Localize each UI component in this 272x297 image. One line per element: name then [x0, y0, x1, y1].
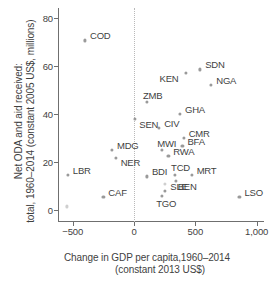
- data-point-rwa[interactable]: [167, 154, 170, 157]
- data-point-label-sen: SEN: [139, 120, 158, 130]
- data-point-label-rwa: RWA: [173, 147, 194, 157]
- data-point-label-sdn: SDN: [205, 60, 224, 70]
- data-point-mdg[interactable]: [110, 148, 113, 151]
- data-point-label-zmb: ZMB: [143, 91, 162, 101]
- data-point-label-nga: NGA: [216, 76, 236, 86]
- data-point-civ[interactable]: [158, 127, 161, 130]
- y-tick-mark: [54, 18, 58, 19]
- data-point-nga[interactable]: [210, 83, 213, 86]
- y-tick-label: 40: [43, 108, 53, 119]
- plot-area: 020406080 −50005001,000 CODSDNKENNGAZMBG…: [58, 8, 264, 222]
- data-point[interactable]: [65, 205, 68, 208]
- y-axis-title-line-2: total, 1960–2014 (constant 2005 US$, mil…: [25, 0, 37, 243]
- data-point-label-lbr: LBR: [73, 166, 91, 176]
- data-point[interactable]: [164, 182, 167, 185]
- data-point-cod[interactable]: [83, 39, 86, 42]
- data-point-label-caf: CAF: [108, 188, 126, 198]
- data-point-label-ner: NER: [121, 158, 140, 168]
- data-point-label-civ: CIV: [164, 119, 179, 129]
- y-tick-mark: [54, 162, 58, 163]
- data-point-gha[interactable]: [178, 112, 181, 115]
- data-point-caf[interactable]: [102, 195, 105, 198]
- x-tick-label: 1,000: [245, 226, 268, 237]
- y-tick-label: 60: [43, 60, 53, 71]
- scatter-plot-figure: 020406080 −50005001,000 CODSDNKENNGAZMBG…: [0, 0, 272, 297]
- data-point-tgo[interactable]: [161, 194, 164, 197]
- data-point-cmr[interactable]: [182, 136, 185, 139]
- data-point-label-mdg: MDG: [117, 141, 139, 151]
- data-point-label-mrt: MRT: [197, 166, 217, 176]
- y-axis-title-line-1: Net ODA and aid received:: [13, 0, 25, 243]
- data-point-label-lso: LSO: [244, 188, 262, 198]
- data-point-lso[interactable]: [238, 195, 241, 198]
- data-point-tcd[interactable]: [174, 174, 177, 177]
- x-axis-title-line-2: (constant 2013 US$): [22, 264, 272, 276]
- data-point-sen[interactable]: [134, 117, 137, 120]
- data-point-mrt[interactable]: [190, 174, 193, 177]
- y-tick-label: 80: [43, 12, 53, 23]
- data-point-label-bdi: BDI: [152, 167, 167, 177]
- data-point-ner[interactable]: [114, 157, 117, 160]
- y-axis-line: [58, 8, 59, 222]
- x-axis-title-line-1: Change in GDP per capita,1960–2014: [22, 252, 272, 264]
- data-point-label-ken: KEN: [160, 74, 179, 84]
- data-point-label-tcd: TCD: [171, 163, 190, 173]
- y-tick-mark: [54, 210, 58, 211]
- zero-reference-line: [134, 8, 135, 222]
- data-point-label-tgo: TGO: [156, 199, 176, 209]
- x-tick-label: −500: [62, 226, 83, 237]
- x-tick-label: 0: [131, 226, 136, 237]
- y-tick-mark: [54, 66, 58, 67]
- x-axis-title: Change in GDP per capita,1960–2014 (cons…: [22, 252, 272, 276]
- x-axis-line: [58, 221, 264, 222]
- y-tick-mark: [54, 114, 58, 115]
- y-axis-title: Net ODA and aid received: total, 1960–20…: [13, 0, 37, 243]
- data-point-label-gha: GHA: [185, 105, 205, 115]
- y-tick-label: 0: [48, 204, 53, 215]
- data-point-sdn[interactable]: [199, 68, 202, 71]
- x-tick-label: 500: [188, 226, 204, 237]
- data-point-ken[interactable]: [184, 71, 187, 74]
- data-point-label-sle: SLE: [170, 182, 187, 192]
- data-point-bdi[interactable]: [145, 175, 148, 178]
- y-tick-label: 20: [43, 156, 53, 167]
- data-point-sle[interactable]: [164, 189, 167, 192]
- data-point-lbr[interactable]: [66, 174, 69, 177]
- data-point-label-cod: COD: [90, 31, 111, 41]
